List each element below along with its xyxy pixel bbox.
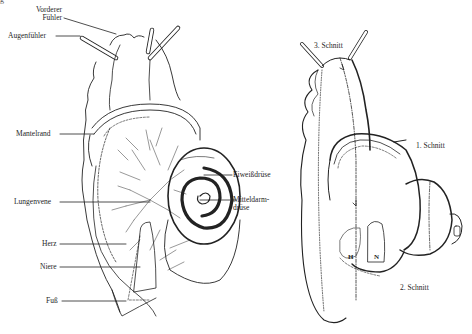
label-eiweissdruese: Eiweißdrüse: [233, 171, 271, 179]
label-augenfuehler: Augenfühler: [8, 32, 46, 40]
label-niere: Niere: [40, 263, 57, 271]
left-leader-lines: [56, 18, 236, 301]
label-organ-h: H: [348, 253, 353, 261]
label-schnitt-3: 3. Schnitt: [314, 42, 343, 50]
label-mitteldarmdruese: Mitteldarm- drüse: [233, 196, 269, 212]
label-lungenvene: Lungenvene: [14, 198, 51, 206]
label-schnitt-2: 2. Schnitt: [400, 284, 429, 292]
left-snail-drawing: [82, 28, 240, 316]
label-vorderer-fuehler: Vorderer Fühler: [6, 6, 62, 22]
label-organ-n: N: [374, 253, 379, 261]
snail-anatomy-figure: g: [0, 0, 472, 334]
label-herz: Herz: [42, 240, 57, 248]
label-fuss: Fuß: [46, 297, 58, 305]
right-snail-drawing: [301, 32, 462, 323]
label-schnitt-1: 1. Schnitt: [416, 142, 445, 150]
label-mantelrand: Mantelrand: [16, 130, 51, 138]
